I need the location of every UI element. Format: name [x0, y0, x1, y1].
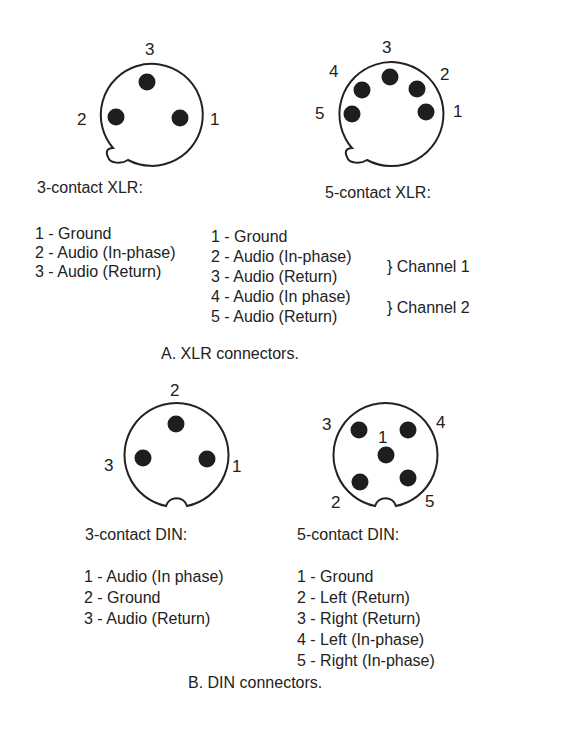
xlr-section-caption: A. XLR connectors. — [161, 345, 299, 363]
channel-1-group-label: } Channel 1 — [387, 258, 470, 276]
din5-pin-label-5: 5 — [425, 492, 434, 511]
list-item: 1 - Ground — [211, 227, 352, 247]
list-item: 1 - Ground — [297, 566, 435, 587]
list-item: 3 - Audio (Return) — [84, 608, 224, 629]
xlr3-pin-list: 1 - Ground 2 - Audio (In-phase) 3 - Audi… — [35, 224, 176, 281]
list-item: 3 - Audio (Return) — [35, 262, 176, 281]
list-item: 5 - Right (In-phase) — [297, 650, 435, 671]
xlr5-pin-label-1: 1 — [453, 102, 462, 121]
din3-title: 3-contact DIN: — [85, 525, 187, 544]
xlr3-pin-label-2: 2 — [77, 110, 86, 129]
din3-pin-label-2: 2 — [170, 381, 179, 400]
list-item: 3 - Audio (Return) — [211, 267, 352, 287]
din5-pin-label-3: 3 — [322, 415, 331, 434]
xlr5-title: 5-contact XLR: — [325, 183, 431, 202]
xlr3-pin-label-3: 3 — [145, 40, 154, 59]
list-item: 3 - Right (Return) — [297, 608, 435, 629]
xlr3-title: 3-contact XLR: — [37, 178, 143, 197]
din-3-connector-icon — [124, 403, 228, 506]
xlr5-pin-label-5: 5 — [315, 104, 324, 123]
xlr5-pin-label-3: 3 — [382, 38, 391, 57]
list-item: 4 - Audio (In phase) — [211, 287, 352, 307]
din3-pin-label-1: 1 — [232, 457, 241, 476]
xlr5-pin-label-2: 2 — [440, 65, 449, 84]
xlr5-pin-label-4: 4 — [329, 62, 338, 81]
din-5-connector-icon — [334, 403, 438, 506]
list-item: 2 - Left (Return) — [297, 587, 435, 608]
list-item: 2 - Ground — [84, 587, 224, 608]
list-item: 1 - Ground — [35, 224, 176, 243]
din3-pin-label-3: 3 — [104, 456, 113, 475]
din5-pin-label-4: 4 — [436, 413, 445, 432]
din-section-caption: B. DIN connectors. — [188, 674, 322, 692]
din5-pin-list: 1 - Ground 2 - Left (Return) 3 - Right (… — [297, 566, 435, 671]
connector-pinout-diagram: 3 2 1 3 4 2 5 1 3-contact XLR: 5-contact… — [0, 0, 586, 730]
din3-pin-list: 1 - Audio (In phase) 2 - Ground 3 - Audi… — [84, 566, 224, 629]
xlr-3-connector-icon — [101, 64, 203, 166]
list-item: 5 - Audio (Return) — [211, 307, 352, 327]
xlr-5-connector-icon — [339, 62, 443, 166]
list-item: 4 - Left (In-phase) — [297, 629, 435, 650]
list-item: 1 - Audio (In phase) — [84, 566, 224, 587]
din5-pin-label-2: 2 — [331, 493, 340, 512]
channel-2-group-label: } Channel 2 — [387, 299, 470, 317]
din5-title: 5-contact DIN: — [297, 525, 399, 544]
xlr5-pin-list: 1 - Ground 2 - Audio (In-phase) 3 - Audi… — [211, 227, 352, 327]
list-item: 2 - Audio (In-phase) — [35, 243, 176, 262]
xlr3-pin-label-1: 1 — [210, 110, 219, 129]
din5-pin-label-1: 1 — [378, 428, 387, 447]
list-item: 2 - Audio (In-phase) — [211, 247, 352, 267]
